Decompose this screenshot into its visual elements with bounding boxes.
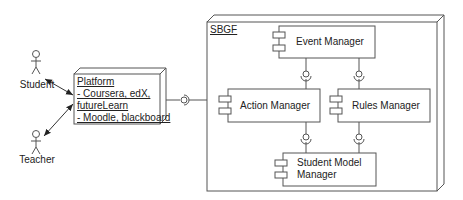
component-icon: [275, 160, 287, 166]
component-icon: [219, 96, 231, 102]
association-teacher-platform[interactable]: [44, 104, 73, 136]
actor-head-icon: [33, 51, 40, 58]
actor-student[interactable]: [31, 51, 41, 75]
component-icon: [273, 32, 285, 38]
component-icon: [275, 172, 287, 178]
diagram-canvas: Student Teacher Platform - Coursera, edX…: [0, 0, 463, 200]
interface-platform-sbgf[interactable]: [166, 95, 207, 105]
sbgf-title: SBGF: [210, 24, 237, 35]
platform-line-3: - Moodle, blackboard: [77, 112, 170, 123]
component-icon: [219, 108, 231, 114]
platform-title: Platform: [77, 76, 114, 87]
actor-head-icon: [33, 131, 40, 138]
interface-lollipop-icon: [303, 71, 309, 77]
interface-lollipop-icon: [356, 134, 362, 140]
platform-line-2: futureLearn: [77, 100, 128, 111]
event-manager-label: Event Manager: [296, 36, 364, 47]
actor-teacher-label: Teacher: [19, 154, 55, 165]
component-icon: [330, 96, 342, 102]
component-icon: [273, 45, 285, 51]
student-model-manager-label-2: Manager: [297, 169, 337, 180]
interface-lollipop-icon: [303, 134, 309, 140]
action-manager-label: Action Manager: [240, 100, 311, 111]
actor-student-label: Student: [20, 79, 55, 90]
interface-lollipop-icon: [356, 71, 362, 77]
actor-teacher[interactable]: [31, 131, 41, 155]
interface-lollipop-icon: [181, 97, 187, 103]
platform-line-1: - Coursera, edX,: [77, 88, 150, 99]
student-model-manager-label-1: Student Model: [297, 157, 362, 168]
rules-manager-label: Rules Manager: [352, 100, 420, 111]
component-icon: [330, 108, 342, 114]
